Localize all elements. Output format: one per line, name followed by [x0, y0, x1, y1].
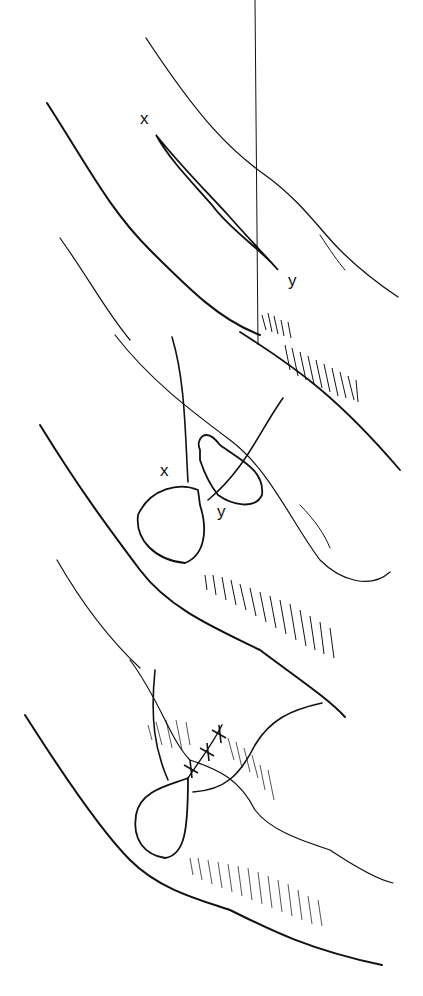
sutures: [184, 725, 226, 778]
panel-3-sutured: [25, 660, 393, 965]
label-x-panel-1: x: [140, 110, 149, 127]
label-x-panel-2: x: [160, 462, 169, 479]
panel-2-approximation: [40, 0, 400, 717]
residual-wound: [135, 778, 188, 858]
label-y-panel-1: y: [288, 272, 297, 289]
wound-lobe-lower: [138, 487, 204, 563]
incision-wound: [156, 135, 278, 270]
surgical-illustration: x y x y: [0, 0, 423, 996]
label-y-panel-2: y: [217, 503, 226, 520]
panel-1-incision: [47, 38, 398, 340]
